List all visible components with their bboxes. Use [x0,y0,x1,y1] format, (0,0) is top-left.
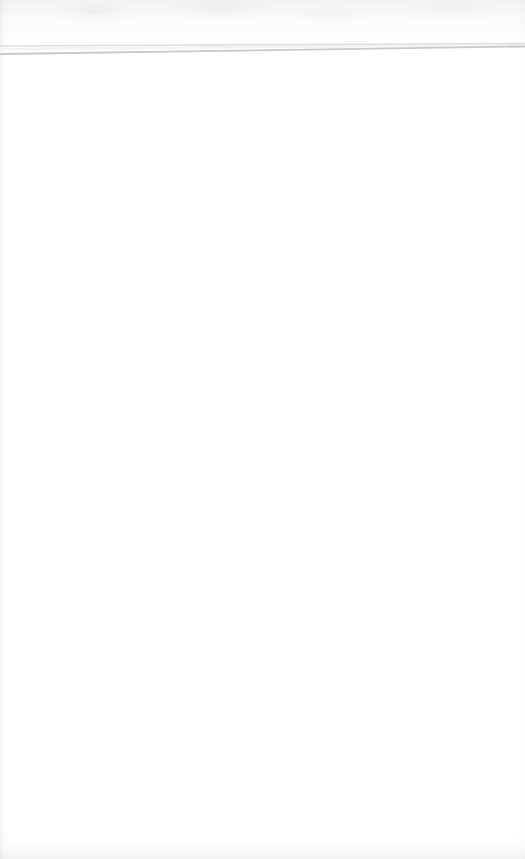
rule-lower-line [0,47,525,55]
scanned-page [0,0,525,859]
scan-edge-bottom-shadow [0,837,525,859]
scan-noise-top-band [0,0,525,40]
scan-edge-left-shadow [0,0,10,859]
scan-edge-right-shadow [517,0,525,859]
horizontal-rule-lines [0,0,525,90]
rule-upper-highlight-line [0,45,525,49]
rule-upper-line [0,44,525,47]
